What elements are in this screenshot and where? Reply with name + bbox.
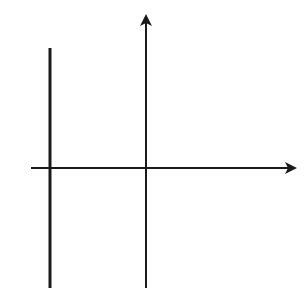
graph-figure [0,0,305,305]
coordinate-plane [0,0,305,305]
equation-label-bg [201,62,263,86]
